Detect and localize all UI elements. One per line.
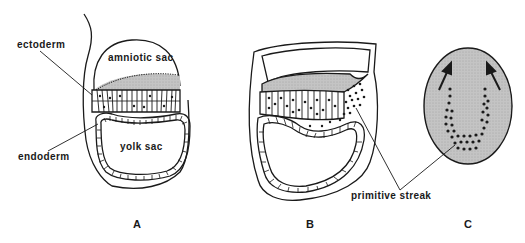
panel-label-b: B (306, 219, 314, 230)
panel-b-drawing (249, 42, 377, 200)
endoderm-leader-line (48, 124, 98, 151)
panel-label-c: C (464, 219, 472, 230)
label-primitive-streak: primitive streak (351, 191, 431, 201)
panel-c-embryonic-disc (424, 48, 512, 164)
label-yolk-sac: yolk sac (120, 142, 163, 152)
label-ectoderm: ectoderm (17, 40, 65, 50)
embryo-diagram (0, 0, 525, 243)
label-endoderm: endoderm (18, 152, 70, 162)
panel-label-a: A (133, 219, 141, 230)
panel-a-drawing (83, 14, 190, 188)
label-amniotic-sac: amniotic sac (108, 53, 173, 63)
panel-b-outer-wall (249, 42, 377, 200)
